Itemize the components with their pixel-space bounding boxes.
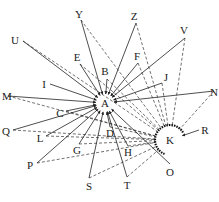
node-label-h: H <box>124 146 132 158</box>
solid-edge-r-k <box>182 130 199 136</box>
node-label-p: P <box>27 159 33 171</box>
solid-edge-y-a <box>81 20 103 94</box>
solid-edge-q-a <box>13 106 96 130</box>
dashed-edge-v-k <box>172 38 185 125</box>
node-label-a: A <box>101 97 109 109</box>
node-label-n: N <box>210 86 218 98</box>
node-label-b: B <box>101 65 108 77</box>
node-label-t: T <box>124 179 131 191</box>
solid-edge-z-a <box>108 23 136 95</box>
solid-edges <box>8 20 214 178</box>
node-label-r: R <box>201 124 209 136</box>
node-label-y: Y <box>75 8 83 20</box>
dashed-edge-q-k <box>13 130 155 139</box>
solid-edge-i-a <box>50 84 96 100</box>
dashed-edge-n-k <box>180 91 214 129</box>
node-label-k: K <box>166 134 174 146</box>
node-label-q: Q <box>2 125 10 137</box>
solid-edge-s-a <box>89 112 103 178</box>
solid-edge-n-a <box>114 91 214 102</box>
dashed-edge-e-k <box>80 64 159 130</box>
node-label-g: G <box>73 144 81 156</box>
node-label-m: M <box>2 90 12 102</box>
solid-edge-e-a <box>80 64 100 95</box>
node-label-l: L <box>37 132 44 144</box>
dashed-edge-h-k <box>128 142 155 146</box>
solid-edge-m-a <box>8 96 96 102</box>
node-label-d: D <box>106 127 114 139</box>
node-label-z: Z <box>131 10 138 22</box>
node-label-s: S <box>86 180 92 192</box>
node-label-e: E <box>74 51 81 63</box>
dashed-edge-j-k <box>162 83 168 125</box>
node-label-v: V <box>180 24 188 36</box>
node-label-i: I <box>42 78 46 90</box>
dashed-edges <box>8 20 214 178</box>
solid-edge-l-a <box>46 107 97 136</box>
dashed-edge-y-k <box>81 20 161 128</box>
node-label-f: F <box>134 50 140 62</box>
node-label-j: J <box>164 71 169 83</box>
solid-edge-u-a <box>23 41 98 98</box>
node-label-c: C <box>56 107 63 119</box>
node-label-u: U <box>11 34 19 46</box>
node-label-o: O <box>166 166 174 178</box>
network-diagram: AKYUZVEFBJIMNCQLDRGHPOST <box>0 0 219 202</box>
